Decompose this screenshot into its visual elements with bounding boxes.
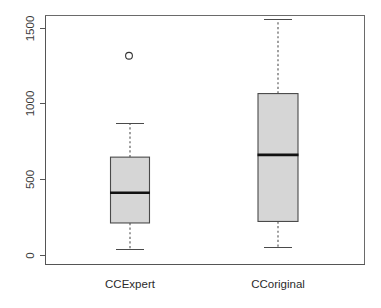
box-group-ccexpert: [110, 52, 150, 249]
y-tick-label-500: 500: [24, 170, 36, 189]
box-rect-ccoriginal: [258, 94, 298, 222]
y-axis-tick-labels: 0 500 1000 1500: [24, 16, 36, 259]
boxplot-canvas: 0 500 1000 1500: [0, 0, 381, 308]
box-group-ccoriginal: [258, 19, 299, 247]
y-tick-label-0: 0: [24, 252, 36, 258]
outlier-point-ccexpert: [126, 52, 133, 59]
y-tick-label-1000: 1000: [24, 91, 36, 117]
x-axis-label-ccexpert: CCExpert: [105, 278, 156, 290]
x-axis-label-ccoriginal: CCoriginal: [251, 278, 305, 290]
y-axis-ticks: [40, 29, 46, 256]
y-tick-label-1500: 1500: [24, 16, 36, 42]
boxplot-figure: 0 500 1000 1500: [0, 0, 381, 308]
box-rect-ccexpert: [111, 157, 150, 223]
plot-panel-border: [46, 16, 365, 265]
